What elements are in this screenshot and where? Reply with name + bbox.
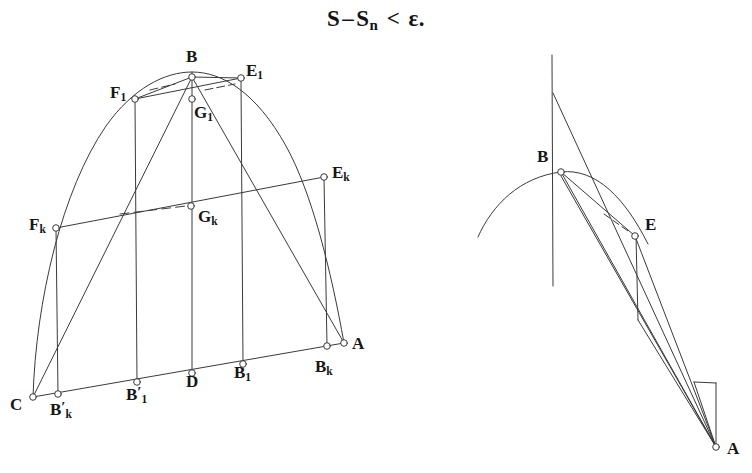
point-label-left-F1: F1 [110,84,126,104]
ordinate-bkp-fk [56,228,58,394]
point-label-subscript: 1 [245,371,251,383]
point-label-subscript: 1 [207,111,213,123]
point-label-left-G1: G1 [194,104,213,124]
point-label-left-Bkp: B′k [50,400,72,421]
point-label-left-Ek: Ek [332,164,350,184]
marker-A-right [713,444,720,451]
line-e-to-a-1 [635,236,716,447]
point-label-subscript: 1 [120,91,126,103]
marker-Bk [324,343,331,350]
point-label-base: F [29,215,39,234]
point-label-subscript: k [211,215,217,227]
point-label-base: G [194,103,207,122]
marker-C [30,394,37,401]
point-label-base: E [246,61,257,80]
point-label-base: B [126,385,137,404]
left-figure-group [30,72,348,400]
marker-Fk [53,225,60,232]
point-label-subscript: 1 [257,69,263,81]
point-label-right-A: A [727,440,739,457]
marker-Gk [188,203,195,210]
point-label-subscript: 1 [142,393,148,405]
dashed-guide-e [604,214,628,231]
point-label-base: B [537,147,548,166]
point-label-base: E [645,215,656,234]
line-b-fan-to-a [561,176,716,447]
point-label-right-B: B [537,148,548,165]
marker-B-right [558,169,565,176]
chord-b-e1 [192,77,241,78]
point-label-left-Bk: Bk [315,358,333,378]
parabola-arc-right [478,172,648,244]
line-e-to-a-2 [638,320,716,447]
line-fan-base [694,382,716,383]
point-label-left-B1p: B′1 [126,385,147,406]
chord-b-e-right [561,172,635,236]
marker-A [341,340,348,347]
point-label-left-C: C [10,396,22,413]
point-label-left-E1: E1 [246,62,263,82]
ordinate-b1p-f1 [135,99,137,382]
marker-E1 [238,75,245,82]
point-label-base: A [352,334,364,353]
point-label-base: B [186,47,197,66]
dashed-guide-g1 [205,84,235,90]
point-label-base: D [186,372,198,391]
point-label-left-B1: B1 [234,364,251,384]
right-figure-group [478,55,719,450]
point-label-base: B [315,357,326,376]
line-tangent-top-to-a [553,93,716,447]
point-label-base: E [332,163,343,182]
point-label-subscript: k [343,171,349,183]
point-label-base: G [198,207,211,226]
marker-B [189,74,196,81]
point-label-left-B: B [186,48,197,65]
chord-f1-e1 [135,78,241,99]
point-label-base: C [10,395,22,414]
marker-F1 [132,96,139,103]
point-label-subscript: k [326,365,332,377]
point-label-left-D: D [186,373,198,390]
marker-Bkp [55,391,62,398]
point-label-left-A: A [352,335,364,352]
marker-Ek [321,174,328,181]
left-point-markers [30,74,348,401]
dashed-guide-gk [120,206,186,214]
point-label-base: B [234,363,245,382]
point-label-left-Fk: Fk [29,216,46,236]
ordinate-b1-e1 [241,78,243,364]
point-label-base: F [110,83,120,102]
marker-E-right [632,233,639,240]
point-label-right-E: E [645,216,656,233]
parabola-arc-left [33,72,344,397]
point-label-subscript: k [39,223,45,235]
point-label-base: B [50,400,61,419]
line-c-to-b [33,77,192,397]
marker-G1 [189,96,196,103]
axis-vertical-b [552,55,553,286]
point-label-base: A [727,439,739,458]
point-label-left-Gk: Gk [198,208,218,228]
figure-canvas: S–Sn < ε. [0,0,752,473]
point-label-subscript: k [66,408,72,420]
diagram-vector-layer [0,0,752,473]
